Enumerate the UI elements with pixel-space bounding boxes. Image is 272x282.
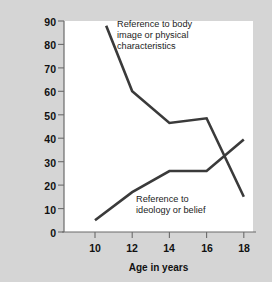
x-axis-ticks (95, 232, 244, 238)
annotation-body-image-line-3: characteristics (117, 41, 192, 52)
annotation-body-image: Reference to body image or physical char… (117, 19, 192, 53)
annotation-ideology-belief-line-1: Reference to (136, 194, 205, 205)
annotation-body-image-line-2: image or physical (117, 30, 192, 41)
y-axis-ticks (58, 21, 64, 232)
annotation-ideology-belief-line-2: ideology or belief (136, 205, 205, 216)
annotation-ideology-belief: Reference to ideology or belief (136, 194, 205, 216)
chart-figure: Percentage of respondents who used a cat… (0, 0, 272, 282)
annotation-body-image-line-1: Reference to body (117, 19, 192, 30)
